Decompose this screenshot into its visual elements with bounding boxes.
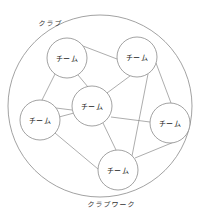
edge-team-center-to-team-right (111, 117, 150, 122)
team-nodes (20, 37, 190, 190)
team-bottom-label: チーム (107, 165, 130, 175)
edge-team-bottom-to-team-right (135, 142, 174, 158)
team-center-label: チーム (81, 101, 104, 111)
edge-team-top-left-to-team-center (78, 75, 88, 87)
edge-team-top-right-to-team-center (107, 76, 130, 93)
team-right-label: チーム (159, 118, 182, 128)
edge-team-center-to-team-bottom (103, 123, 116, 150)
edge-team-top-left-to-team-top-right (83, 46, 117, 59)
edge-team-left-to-team-bottom (55, 133, 98, 169)
team-top-right-label: チーム (126, 52, 149, 62)
edge-team-left-to-team-center (56, 108, 72, 110)
edge-team-top-left-to-team-left (42, 74, 55, 100)
team-left-label: チーム (29, 115, 52, 125)
edge-team-top-right-to-team-right (156, 63, 171, 103)
club-label: クラブ (37, 18, 62, 28)
edge-team-left-to-team-center (59, 113, 74, 117)
edge-team-top-right-to-team-bottom (132, 74, 148, 156)
clubwork-label: クラブワーク (86, 199, 135, 209)
team-top-left-label: チーム (56, 53, 79, 63)
